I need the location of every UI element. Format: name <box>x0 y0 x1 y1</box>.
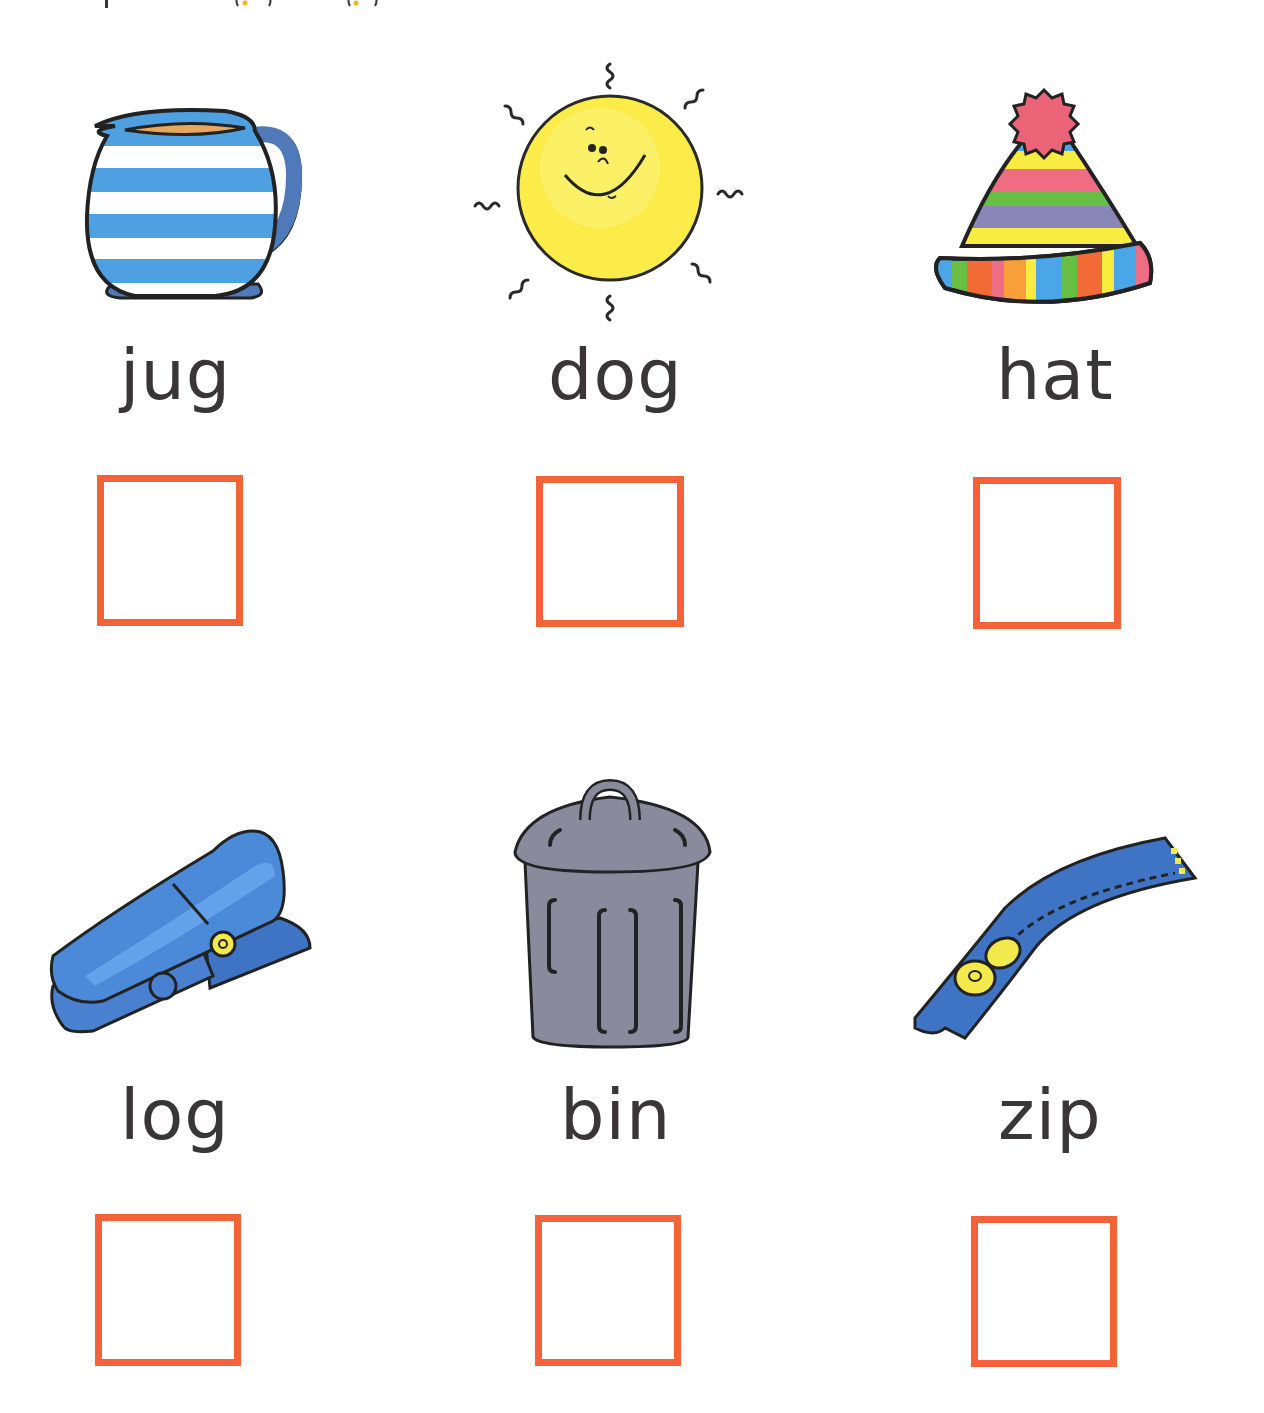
word-label: bin <box>560 1080 671 1150</box>
answer-box-bin[interactable] <box>535 1215 681 1366</box>
word-label: hat <box>996 340 1114 410</box>
clipped-instruction-line <box>0 0 1264 8</box>
word-label: dog <box>548 340 683 410</box>
answer-box-hat[interactable] <box>973 477 1121 629</box>
sun-icon <box>470 58 755 328</box>
word-label: jug <box>120 340 231 410</box>
jug-icon <box>80 96 305 311</box>
answer-box-jug[interactable] <box>97 475 243 626</box>
hat-icon <box>932 86 1157 316</box>
clothes-peg-icon <box>45 826 320 1046</box>
answer-box-zip[interactable] <box>971 1216 1117 1367</box>
answer-box-log[interactable] <box>95 1214 241 1366</box>
answer-box-dog[interactable] <box>536 476 684 627</box>
bin-icon <box>510 782 715 1052</box>
word-label: zip <box>998 1080 1102 1150</box>
word-label: log <box>120 1080 230 1150</box>
zip-icon <box>905 838 1205 1048</box>
